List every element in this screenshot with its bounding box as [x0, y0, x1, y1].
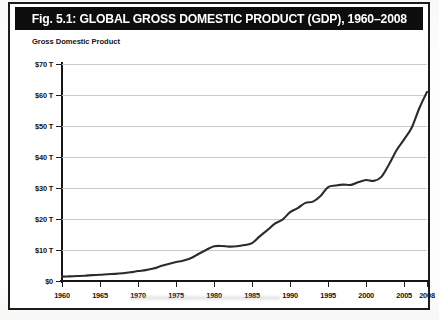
y-axis-tick-label: $50 T: [35, 122, 53, 131]
figure-frame: Fig. 5.1: GLOBAL GROSS DOMESTIC PRODUCT …: [8, 2, 430, 310]
x-axis-tick-label: 1965: [92, 291, 108, 300]
x-axis-tick: [252, 282, 253, 287]
x-axis-tick-label: 1980: [206, 291, 222, 300]
y-axis-tick-label: $0: [45, 277, 53, 286]
x-axis-tick: [328, 282, 329, 287]
y-axis-tick-label: $20 T: [35, 215, 53, 224]
y-axis-tick-label: $10 T: [35, 246, 53, 255]
figure-title: Fig. 5.1: GLOBAL GROSS DOMESTIC PRODUCT …: [31, 12, 406, 26]
x-axis-tick: [366, 282, 367, 287]
x-axis-tick: [214, 282, 215, 287]
x-axis-tick-label: 1985: [244, 291, 260, 300]
x-axis-tick-label: 1975: [168, 291, 184, 300]
figure-title-bar: Fig. 5.1: GLOBAL GROSS DOMESTIC PRODUCT …: [15, 7, 423, 30]
x-axis-tick-label: 2005: [396, 291, 412, 300]
plot-area: $0$10 T$20 T$30 T$40 T$50 T$60 T$70 T 19…: [62, 64, 427, 281]
x-axis-tick-label: 2008: [419, 291, 435, 300]
y-axis-tick-label: $60 T: [35, 91, 53, 100]
x-axis-tick-label: 1970: [130, 291, 146, 300]
x-axis-tick: [404, 282, 405, 287]
y-axis-tick-label: $70 T: [35, 60, 53, 69]
y-axis-tick-label: $40 T: [35, 153, 53, 162]
gdp-line-path: [62, 92, 427, 277]
y-axis-title: Gross Domestic Product: [32, 37, 120, 46]
x-axis-tick: [290, 282, 291, 287]
x-axis-tick-label: 2000: [358, 291, 374, 300]
x-axis-tick-label: 1995: [320, 291, 336, 300]
x-axis-tick: [427, 282, 428, 287]
gdp-line-series: [62, 64, 427, 281]
x-axis-tick-label: 1990: [282, 291, 298, 300]
x-axis-tick: [176, 282, 177, 287]
y-axis-tick-label: $30 T: [35, 184, 53, 193]
x-axis-tick: [100, 282, 101, 287]
x-axis-tick-label: 1960: [54, 291, 70, 300]
x-axis-tick: [62, 282, 63, 287]
x-axis-tick: [138, 282, 139, 287]
